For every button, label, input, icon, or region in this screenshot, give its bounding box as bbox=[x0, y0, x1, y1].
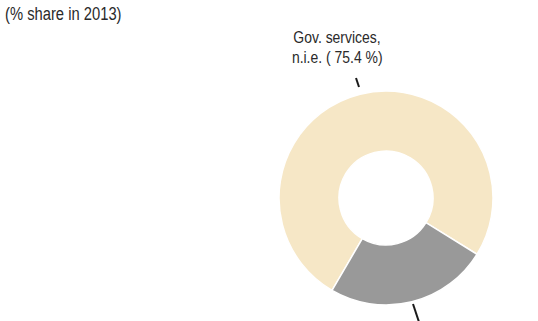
slice-label-line1: Gov. services, bbox=[292, 28, 382, 48]
leader-line-gov-services bbox=[356, 78, 359, 87]
slice-label-line2: n.i.e. ( 75.4 %) bbox=[292, 48, 382, 68]
leader-line-other bbox=[413, 304, 419, 321]
slice-label-gov-services: Gov. services, n.i.e. ( 75.4 %) bbox=[292, 28, 382, 68]
donut-chart bbox=[0, 0, 538, 321]
